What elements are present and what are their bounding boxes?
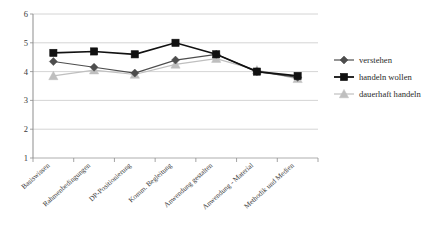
- legend-label: dauerhaft handeln: [359, 89, 422, 99]
- line-chart: 123456BasiswissenRahmenbedingungenDP-Pos…: [0, 0, 428, 246]
- legend-item-dauerhaft-handeln[interactable]: dauerhaft handeln: [334, 89, 422, 99]
- marker-square: [340, 73, 347, 80]
- x-axis-ticks: [33, 158, 318, 162]
- marker-square: [294, 72, 301, 79]
- y-axis-labels: 123456: [24, 9, 33, 163]
- y-tick-label: 4: [24, 67, 29, 77]
- marker-square: [172, 39, 179, 46]
- legend-label: verstehen: [359, 55, 393, 65]
- x-tick-label: Basiswissen: [20, 161, 52, 191]
- y-tick-label: 3: [24, 95, 28, 105]
- legend-label: handeln wollen: [359, 72, 412, 82]
- marker-square: [90, 48, 97, 55]
- y-tick-label: 1: [24, 153, 28, 163]
- marker-square: [253, 68, 260, 75]
- marker-square: [213, 51, 220, 58]
- marker-diamond: [49, 58, 57, 66]
- y-tick-label: 5: [24, 38, 28, 48]
- marker-diamond: [172, 56, 180, 64]
- y-tick-label: 6: [24, 9, 28, 19]
- marker-square: [131, 51, 138, 58]
- legend-item-verstehen[interactable]: verstehen: [334, 55, 393, 65]
- legend: verstehenhandeln wollendauerhaft handeln: [334, 55, 422, 99]
- marker-diamond: [340, 56, 348, 64]
- x-tick-label: Komm. Begleitung: [127, 161, 174, 204]
- gridlines: [33, 14, 318, 158]
- y-tick-label: 2: [24, 124, 28, 134]
- legend-item-handeln-wollen[interactable]: handeln wollen: [334, 72, 412, 82]
- x-tick-label: DP-Positionierung: [88, 161, 133, 203]
- x-axis-labels: BasiswissenRahmenbedingungenDP-Positioni…: [20, 161, 296, 211]
- marker-square: [50, 49, 57, 56]
- chart-container: 123456BasiswissenRahmenbedingungenDP-Pos…: [0, 0, 428, 246]
